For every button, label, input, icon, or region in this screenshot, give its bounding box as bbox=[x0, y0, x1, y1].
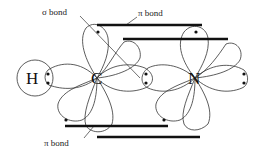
pi-bottom-leader-line bbox=[84, 126, 94, 138]
pi-bond-bottom-label: π bond bbox=[44, 138, 69, 148]
n-p-lobe-top-back bbox=[195, 43, 241, 78]
electrons bbox=[46, 30, 245, 121]
pi-bond-top-label: π bond bbox=[138, 8, 163, 18]
atom-h: H bbox=[26, 69, 38, 88]
hcn-orbital-diagram: σ bond π bond π bond H C N bbox=[0, 0, 266, 159]
atom-n: N bbox=[188, 69, 200, 88]
atom-c: C bbox=[91, 69, 102, 88]
n-sp-lobe-right bbox=[195, 65, 248, 91]
sigma-bond-label: σ bond bbox=[42, 7, 68, 17]
